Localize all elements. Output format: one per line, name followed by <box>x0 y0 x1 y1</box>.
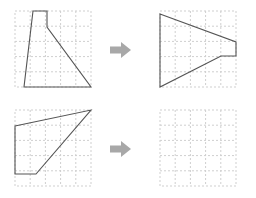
puzzle-row-bottom <box>0 99 256 198</box>
panel-bottom-left-source[interactable] <box>15 110 91 186</box>
rotation-puzzle <box>0 0 256 198</box>
arrow-bottom <box>110 140 132 158</box>
grid-top-left <box>15 11 91 87</box>
arrow-right-icon <box>110 42 131 58</box>
panel-top-right-result[interactable] <box>160 11 236 87</box>
grid-bottom-left <box>15 110 91 186</box>
grid-top-right <box>160 11 236 87</box>
arrow-top <box>110 41 132 59</box>
grid-bottom-right <box>160 110 236 186</box>
puzzle-row-top <box>0 0 256 99</box>
panel-bottom-right-answer[interactable] <box>160 110 236 186</box>
panel-top-left-source[interactable] <box>15 11 91 87</box>
arrow-right-icon <box>110 141 131 157</box>
